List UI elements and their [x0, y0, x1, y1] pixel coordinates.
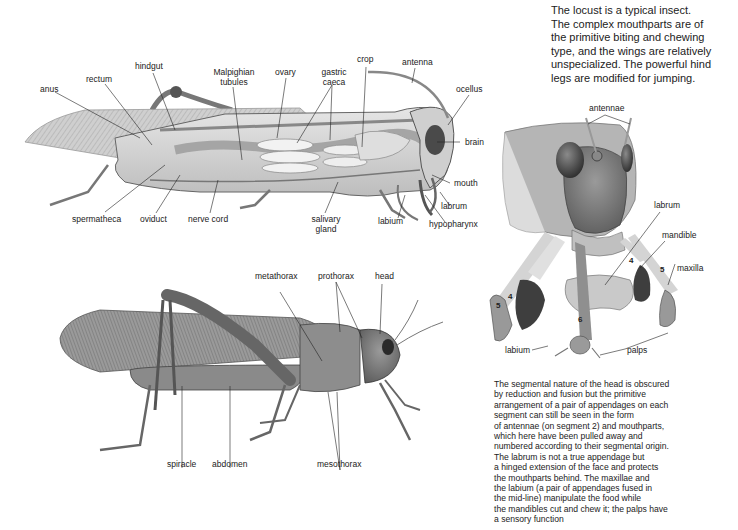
segment-line: segment can still be seen in the form [494, 410, 738, 420]
label-crop: crop [357, 54, 374, 64]
segment-line: numbered according to their segmental or… [494, 441, 738, 451]
label-nerve-cord: nerve cord [188, 214, 228, 224]
segment-line: the mid-line) manipulate the food while [494, 493, 738, 503]
svg-text:4: 4 [508, 292, 513, 301]
label-malpighian-line2: tubules [206, 77, 262, 87]
intro-line: type, and the wings are relatively [551, 45, 736, 59]
svg-text:4: 4 [629, 256, 634, 265]
label-hypopharynx: hypopharynx [429, 219, 478, 229]
label-malpighian-tubules: Malpighian tubules [206, 67, 262, 87]
intro-line: The locust is a typical insect. [551, 4, 736, 18]
segment-line: The labrum is not a true appendage but [494, 452, 738, 462]
internal-anatomy-figure [25, 72, 454, 220]
label-head: head [375, 271, 394, 281]
label-ocellus: ocellus [456, 84, 482, 94]
segment-line: The segmental nature of the head is obsc… [494, 379, 738, 389]
segment-line: a sensory function [494, 514, 738, 524]
segment-line: by reduction and fusion but the primitiv… [494, 389, 738, 399]
intro-line: unspecialized. The powerful hind [551, 58, 736, 72]
segment-line: the labium (a pair of appendages fused i… [494, 483, 738, 493]
label-gastric-line1: gastric [316, 67, 352, 77]
label-metathorax: metathorax [255, 271, 298, 281]
label-antennae: antennae [589, 103, 624, 113]
label-anus: anus [40, 84, 58, 94]
label-hindgut: hindgut [135, 61, 163, 71]
segment-line: arrangement of a pair of appendages on e… [494, 400, 738, 410]
label-antenna: antenna [402, 57, 433, 67]
intro-line: the primitive biting and chewing [551, 31, 736, 45]
label-gastric-caeca: gastric caeca [316, 67, 352, 87]
svg-text:6: 6 [578, 315, 583, 324]
segment-line: the mandibles cut and chew it; the palps… [494, 504, 738, 514]
label-maxilla: maxilla [677, 263, 703, 273]
intro-line: The complex mouthparts are of [551, 18, 736, 32]
head-mouthparts-figure: 4 5 4 5 6 [490, 118, 678, 358]
label-abdomen: abdomen [212, 459, 247, 469]
label-gastric-line2: caeca [316, 77, 352, 87]
segment-line: a hinged extension of the face and prote… [494, 462, 738, 472]
label-mouth: mouth [454, 178, 478, 188]
svg-text:5: 5 [660, 265, 665, 274]
label-rectum: rectum [86, 74, 112, 84]
intro-line: legs are modified for jumping. [551, 72, 736, 86]
svg-text:5: 5 [496, 301, 501, 310]
label-labium-internal: labium [378, 216, 403, 226]
label-ovary: ovary [275, 67, 296, 77]
label-salivary-line1: salivary [308, 214, 344, 224]
label-palps: palps [627, 345, 647, 355]
label-spermatheca: spermatheca [72, 214, 121, 224]
label-spiracle: spiracle [167, 459, 196, 469]
label-oviduct: oviduct [140, 214, 167, 224]
segment-line: of antennae (on segment 2) and mouthpart… [494, 421, 738, 431]
label-salivary-gland: salivary gland [308, 214, 344, 234]
intro-caption: The locust is a typical insect. The comp… [551, 4, 736, 85]
label-labrum-internal: labrum [441, 201, 467, 211]
label-prothorax: prothorax [318, 271, 354, 281]
label-malpighian-line1: Malpighian [206, 67, 262, 77]
segment-line: the mouthparts behind. The maxillae and [494, 473, 738, 483]
segment-caption: The segmental nature of the head is obsc… [494, 379, 738, 525]
label-mandible: mandible [662, 230, 697, 240]
external-anatomy-figure [60, 295, 443, 450]
label-labium-head: labium [505, 345, 530, 355]
segment-line: which here have been pulled away and [494, 431, 738, 441]
label-labrum-head: labrum [654, 200, 680, 210]
label-brain: brain [465, 137, 484, 147]
label-mesothorax: mesothorax [317, 459, 361, 469]
label-salivary-line2: gland [308, 224, 344, 234]
